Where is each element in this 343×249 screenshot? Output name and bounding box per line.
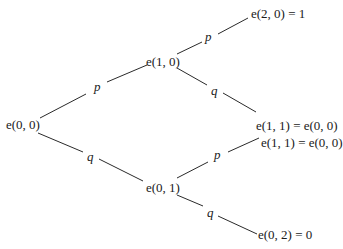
node-up-down-label: e(1, 1) = e(0, 0) xyxy=(256,118,338,133)
edge-down-downup-segment-1 xyxy=(177,162,208,178)
node-root-label: e(0, 0) xyxy=(6,117,40,132)
edge-label-down-downdown: q xyxy=(207,206,214,219)
edge-down-downup-segment-2 xyxy=(228,138,259,152)
edge-down-downdown-segment-1 xyxy=(177,195,203,206)
edge-up-updown-segment-1 xyxy=(177,68,207,85)
edge-up-updown-segment-2 xyxy=(223,93,256,112)
edge-down-downdown-segment-2 xyxy=(218,216,257,234)
node-down-label: e(0, 1) xyxy=(146,180,180,195)
edge-root-up-segment-1 xyxy=(40,94,86,118)
edge-root-down-segment-1 xyxy=(38,133,83,152)
edge-label-root-down: q xyxy=(87,150,94,163)
edge-root-up-segment-2 xyxy=(107,65,147,82)
node-down: e(0, 1) xyxy=(146,181,180,194)
edge-up-upup-segment-1 xyxy=(177,42,202,54)
edge-label-root-up: p xyxy=(94,80,101,93)
edge-label-up-updown: q xyxy=(211,84,218,97)
node-up-down: e(1, 1) = e(0, 0) xyxy=(256,119,338,132)
node-down-down: e(0, 2) = 0 xyxy=(258,228,312,241)
node-down-down-label: e(0, 2) = 0 xyxy=(258,227,312,242)
node-root: e(0, 0) xyxy=(6,118,40,131)
node-down-up-label: e(1, 1) = e(0, 0) xyxy=(261,135,343,150)
node-up-up: e(2, 0) = 1 xyxy=(251,7,305,20)
edge-label-up-upup: p xyxy=(205,30,212,43)
edge-root-down-segment-2 xyxy=(99,159,143,181)
node-down-up: e(1, 1) = e(0, 0) xyxy=(261,136,343,149)
node-up: e(1, 0) xyxy=(146,55,180,68)
node-up-up-label: e(2, 0) = 1 xyxy=(251,6,305,21)
edge-label-down-downup: p xyxy=(214,148,221,161)
edge-up-upup-segment-2 xyxy=(218,18,248,34)
node-up-label: e(1, 0) xyxy=(146,54,180,69)
